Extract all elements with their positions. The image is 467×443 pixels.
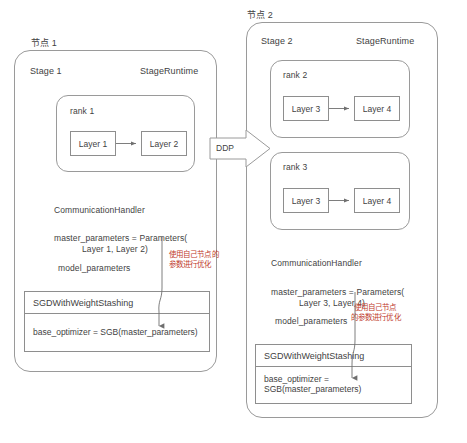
node1-model-parameters-label: model_parameters <box>58 263 130 274</box>
node2-rank2-label: rank 2 <box>283 70 307 81</box>
node1-optimizer-box: SGDWithWeightStashing base_optimizer = S… <box>24 291 210 352</box>
node1-master-parameters-line1: master_parameters = Parameters( <box>54 233 187 244</box>
node2-annotation-line1: 使用自己节点 <box>354 303 397 313</box>
node1-layer2-label: Layer 2 <box>150 139 178 149</box>
node2-rank2-layer3-label: Layer 3 <box>292 104 320 114</box>
node2-optimizer-box: SGDWithWeightStashing base_optimizer = S… <box>255 344 412 404</box>
node2-optimizer-body: base_optimizer = SGB(master_parameters) <box>256 365 411 403</box>
node2-model-parameters-label: model_parameters <box>275 316 347 327</box>
node2-stageruntime-label: StageRuntime <box>356 36 414 47</box>
node1-layer1-label: Layer 1 <box>79 139 107 149</box>
node2-communication-handler-label: CommunicationHandler <box>271 258 362 269</box>
node1-optimizer-body: base_optimizer = SGB(master_parameters) <box>25 312 209 351</box>
node1-optimizer-title: SGDWithWeightStashing <box>25 292 209 314</box>
node1-annotation-line2: 参数进行优化 <box>169 260 212 270</box>
node2-rank3-layer3-box: Layer 3 <box>283 188 329 213</box>
node2-rank2-layer4-label: Layer 4 <box>363 104 391 114</box>
diagram-canvas: 节点 1 Stage 1 StageRuntime rank 1 Layer 1… <box>0 0 467 443</box>
node2-label: 节点 2 <box>247 10 273 21</box>
node2-rank3-label: rank 3 <box>283 162 307 173</box>
node2-rank2-layer3-box: Layer 3 <box>283 96 329 121</box>
node1-layer1-box: Layer 1 <box>70 131 116 156</box>
node1-stageruntime-label: StageRuntime <box>140 66 198 77</box>
node1-communication-handler-label: CommunicationHandler <box>54 205 145 216</box>
node2-rank3-layer4-label: Layer 4 <box>363 196 391 206</box>
node1-layer2-box: Layer 2 <box>141 131 187 156</box>
node1-label: 节点 1 <box>31 38 57 49</box>
node1-annotation-line1: 使用自己节点的 <box>169 250 219 260</box>
node2-rank3-layer4-box: Layer 4 <box>354 188 400 213</box>
node2-master-parameters-line1: master_parameters = Parameters( <box>271 287 404 298</box>
node2-stage-label: Stage 2 <box>261 36 293 47</box>
node2-annotation-line2: 的参数进行优化 <box>351 313 401 323</box>
ddp-label: DDP <box>216 143 234 153</box>
node2-optimizer-title: SGDWithWeightStashing <box>256 345 411 367</box>
node2-rank2-layer4-box: Layer 4 <box>354 96 400 121</box>
node1-rank1-label: rank 1 <box>70 106 94 117</box>
node2-rank3-layer3-label: Layer 3 <box>292 196 320 206</box>
node1-stage-label: Stage 1 <box>30 66 62 77</box>
node1-master-parameters-line2: Layer 1, Layer 2) <box>82 244 148 255</box>
